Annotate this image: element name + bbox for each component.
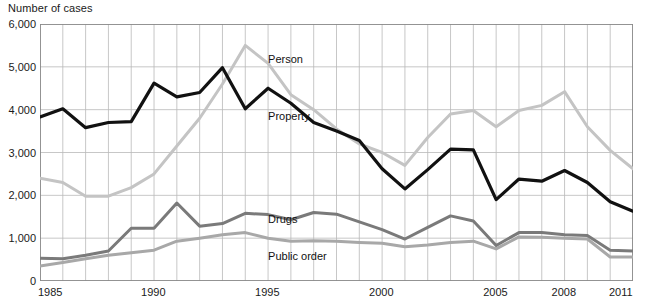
x-tick-label: 1995 <box>255 286 279 298</box>
y-tick-label: 6,000 <box>8 18 36 30</box>
x-tick-label: 2008 <box>552 286 576 298</box>
series-label-person: Person <box>268 53 303 65</box>
x-tick-label: 2005 <box>483 286 507 298</box>
y-axis-tick-labels: 01,0002,0003,0004,0005,0006,000 <box>0 24 36 281</box>
x-tick-label: 2000 <box>369 286 393 298</box>
series-label-property: Property <box>268 110 310 122</box>
x-tick-label: 2011 <box>609 286 633 298</box>
y-tick-label: 5,000 <box>8 61 36 73</box>
plot-area <box>40 24 633 281</box>
x-tick-label: 1985 <box>38 286 62 298</box>
chart-root: Number of cases 01,0002,0003,0004,0005,0… <box>0 0 652 308</box>
y-tick-label: 3,000 <box>8 147 36 159</box>
y-tick-label: 2,000 <box>8 189 36 201</box>
y-tick-label: 0 <box>30 275 36 287</box>
y-tick-label: 4,000 <box>8 104 36 116</box>
series-label-public-order: Public order <box>268 250 327 262</box>
chart-svg <box>40 24 633 281</box>
y-axis-title: Number of cases <box>8 2 93 14</box>
x-tick-label: 1990 <box>141 286 165 298</box>
series-label-drugs: Drugs <box>268 213 297 225</box>
y-tick-label: 1,000 <box>8 232 36 244</box>
